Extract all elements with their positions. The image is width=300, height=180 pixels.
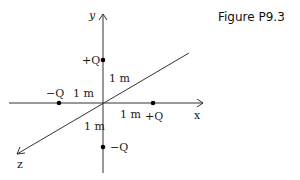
charge-dot-y-neg — [101, 145, 106, 150]
x-axis-label: x — [194, 109, 201, 122]
charge-dot-x-pos — [151, 101, 156, 106]
distance-label-y-pos: 1 m — [109, 72, 130, 85]
distance-label-x-pos: 1 m — [120, 108, 141, 121]
charge-label-x-pos: +Q — [145, 110, 163, 123]
charge-dot-y-pos — [101, 58, 106, 63]
y-axis-label: y — [88, 9, 96, 22]
charge-label-y-neg: −Q — [110, 141, 128, 154]
z-axis-label: z — [17, 158, 23, 171]
charge-label-y-pos: +Q — [82, 54, 100, 67]
charge-dot-x-neg — [57, 101, 62, 106]
charge-label-x-neg: −Q — [46, 87, 64, 100]
distance-label-x-neg: 1 m — [73, 87, 94, 100]
coordinate-diagram: y x z +Q −Q +Q −Q 1 m 1 m 1 m 1 m — [0, 0, 300, 180]
distance-label-y-neg: 1 m — [84, 120, 105, 133]
